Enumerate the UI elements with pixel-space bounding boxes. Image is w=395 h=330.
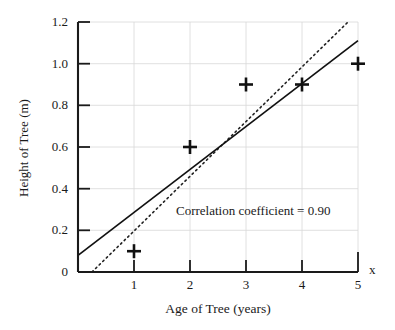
ytick-label-1.2: 1.2: [18, 15, 68, 28]
ytick-label-0: 0: [18, 265, 68, 278]
y-axis-title: Height of Tree (m): [16, 48, 32, 248]
y-axis-ticks: [78, 22, 90, 230]
xtick-label-3: 3: [226, 278, 266, 291]
regression-line-solid: [78, 41, 358, 256]
grid-horizontal: [78, 22, 358, 230]
xtick-label-2: 2: [170, 278, 210, 291]
data-point-1: [127, 244, 141, 258]
xtick-label-5: 5: [338, 278, 378, 291]
data-point-5: [351, 57, 365, 71]
correlation-annotation: Correlation coefficient = 0.90: [176, 203, 330, 219]
data-point-2: [183, 140, 197, 154]
data-point-3: [239, 78, 253, 92]
xtick-label-4: 4: [282, 278, 322, 291]
x-axis-title: Age of Tree (years): [78, 301, 358, 317]
x-axis-letter: x: [369, 262, 376, 278]
xtick-label-1: 1: [114, 278, 154, 291]
chart-figure: 1.2 1.0 0.8 0.6 0.4 0.2 0 1 2 3 4 5 Heig…: [0, 0, 395, 330]
